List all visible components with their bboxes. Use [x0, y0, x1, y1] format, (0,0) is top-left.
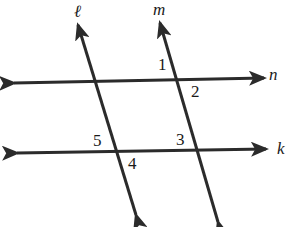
angle-label-1: 1 — [158, 55, 167, 74]
angle-label-2: 2 — [191, 82, 200, 101]
angle-label-5: 5 — [93, 131, 102, 150]
line-label-l: ℓ — [74, 2, 81, 21]
line-l — [78, 25, 136, 215]
line-label-n: n — [269, 65, 278, 84]
line-k — [17, 149, 266, 153]
lines-group — [14, 23, 266, 222]
parallel-lines-transversals-diagram: ℓmnk 12345 — [0, 0, 288, 227]
angle-label-3: 3 — [176, 130, 185, 149]
line-n — [14, 78, 264, 83]
angle-labels-group: 12345 — [93, 55, 200, 173]
angle-label-4: 4 — [128, 154, 137, 173]
line-label-k: k — [277, 139, 285, 158]
line-m — [160, 23, 218, 222]
line-label-m: m — [153, 0, 165, 19]
